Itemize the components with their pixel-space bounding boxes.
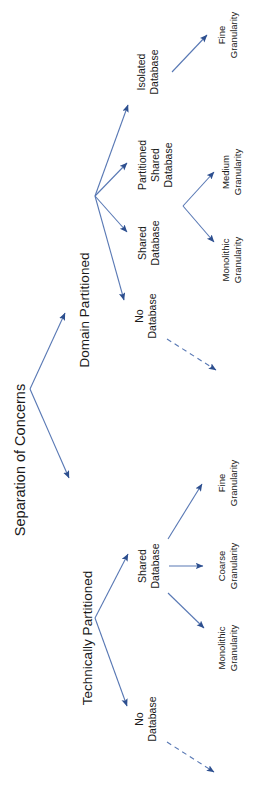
node-label-root: Separation of Concerns: [12, 384, 28, 536]
node-label-tp-shared-database-line1: Shared: [136, 549, 148, 583]
node-label-dp-no-database-line1: No: [133, 309, 145, 323]
diagram-background: [0, 0, 262, 797]
node-label-dp-monolithic-granularity-line2: Granularity: [232, 237, 243, 284]
node-label-partitioned-shared-database-line3: Database: [162, 142, 174, 187]
node-tp-shared-database: Shared Database: [136, 543, 161, 588]
node-dp-medium-granularity: Medium Granularity: [220, 149, 243, 196]
node-label-partitioned-shared-database-line1: Partitioned: [136, 140, 148, 190]
node-label-tp-no-database-line1: No: [133, 712, 145, 726]
node-label-tp-coarse-granularity-line1: Coarse: [216, 551, 227, 582]
node-label-tp-fine-granularity-line1: Fine: [216, 474, 227, 492]
node-label-tp-coarse-granularity-line2: Granularity: [228, 543, 239, 590]
node-label-isolated-database-line2: Database: [148, 49, 160, 94]
node-dp-shared-database: Shared Database: [136, 220, 161, 265]
node-label-dp-monolithic-granularity-line1: Monolithic: [220, 238, 231, 281]
node-label-tp-monolithic-granularity-line2: Granularity: [228, 625, 239, 672]
node-label-isolated-database-line1: Isolated: [135, 53, 147, 90]
separation-of-concerns-tree-diagram: Separation of Concerns Domain Partitione…: [0, 0, 262, 797]
node-label-tp-monolithic-granularity-line1: Monolithic: [216, 626, 227, 669]
node-label-domain-partitioned: Domain Partitioned: [77, 253, 92, 368]
node-isolated-database: Isolated Database: [135, 49, 160, 94]
node-dp-monolithic-granularity: Monolithic Granularity: [220, 237, 243, 284]
node-label-dp-fine-granularity-line1: Fine: [216, 26, 227, 44]
node-label-tp-no-database-line2: Database: [146, 696, 158, 741]
node-label-dp-fine-granularity-line2: Granularity: [228, 12, 239, 59]
node-label-tp-shared-database-line2: Database: [149, 543, 161, 588]
node-label-dp-no-database-line2: Database: [146, 293, 158, 338]
node-label-dp-shared-database-line2: Database: [149, 220, 161, 265]
node-label-tp-fine-granularity-line2: Granularity: [228, 460, 239, 507]
node-label-partitioned-shared-database-line2: Shared: [149, 148, 161, 182]
node-label-technically-partitioned: Technically Partitioned: [80, 571, 95, 705]
node-label-dp-medium-granularity-line2: Granularity: [232, 149, 243, 196]
node-label-dp-medium-granularity-line1: Medium: [220, 155, 231, 189]
node-tp-monolithic-granularity: Monolithic Granularity: [216, 625, 239, 672]
node-label-dp-shared-database-line1: Shared: [136, 226, 148, 260]
